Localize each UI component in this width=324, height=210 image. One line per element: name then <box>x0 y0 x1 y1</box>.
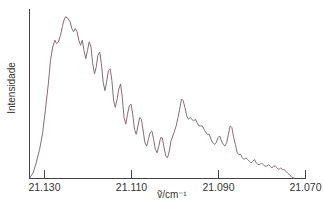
x-axis-ticks <box>45 170 306 179</box>
spectrum-chart: 21.13021.11021.09021.070 ṽ/cm⁻¹ Intensid… <box>0 0 324 210</box>
plot-area: 21.13021.11021.09021.070 <box>28 9 321 193</box>
x-axis-title: ṽ/cm⁻¹ <box>157 189 187 200</box>
y-axis-title: Intensidade <box>6 62 17 114</box>
x-tick-label: 21.070 <box>289 181 321 193</box>
x-tick-label: 21.110 <box>116 181 147 193</box>
x-tick-label: 21.090 <box>202 181 234 193</box>
spectrum-line <box>30 17 295 178</box>
x-tick-label: 21.130 <box>28 181 60 193</box>
